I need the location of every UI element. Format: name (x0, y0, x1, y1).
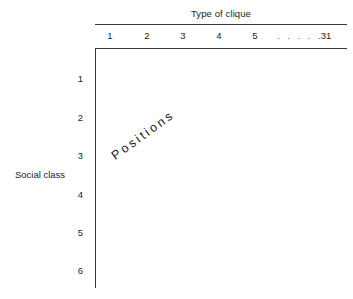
column-label-4: 4 (216, 30, 221, 41)
column-label-2: 2 (144, 30, 149, 41)
row-label-1: 1 (78, 73, 83, 84)
row-label-3: 3 (78, 150, 83, 161)
matrix-diagram: Type of clique 1 2 3 4 5 . . . . . 31 1 … (0, 0, 353, 299)
column-header-row: 1 2 3 4 5 . . . . . 31 (95, 30, 347, 44)
header-rule-top (95, 24, 347, 25)
column-ellipsis: . . . . . (277, 30, 322, 41)
row-label-4: 4 (78, 189, 83, 200)
row-group-title: Social class (0, 169, 80, 180)
vertical-axis (95, 48, 96, 288)
row-label-5: 5 (78, 227, 83, 238)
column-label-3: 3 (180, 30, 185, 41)
column-label-1: 1 (107, 30, 112, 41)
row-label-6: 6 (78, 265, 83, 276)
header-rule-bottom (95, 48, 347, 49)
column-label-31: 31 (321, 30, 332, 41)
body-diagonal-label: Positions (109, 108, 177, 163)
column-label-5: 5 (252, 30, 257, 41)
column-group-title: Type of clique (95, 8, 347, 19)
row-label-2: 2 (78, 112, 83, 123)
